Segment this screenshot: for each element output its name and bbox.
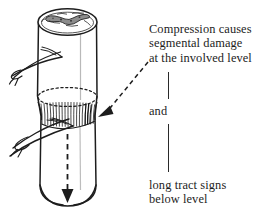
connector-rule-lower (168, 124, 169, 172)
caption-top-line-3: at the involved level (149, 51, 252, 65)
caption-layer: Compression causes segmental damage at t… (0, 0, 267, 220)
caption-middle-line-1: and (149, 104, 167, 118)
caption-bottom-line-2: below level (149, 192, 226, 206)
caption-and: and (149, 104, 167, 118)
caption-segmental-damage: Compression causes segmental damage at t… (149, 22, 252, 65)
caption-long-tract-signs: long tract signs below level (149, 178, 226, 207)
figure-root: Compression causes segmental damage at t… (0, 0, 267, 220)
caption-bottom-line-1: long tract signs (149, 178, 226, 192)
connector-rule-upper (168, 72, 169, 99)
caption-top-line-1: Compression causes (149, 22, 252, 36)
caption-top-line-2: segmental damage (149, 36, 252, 50)
